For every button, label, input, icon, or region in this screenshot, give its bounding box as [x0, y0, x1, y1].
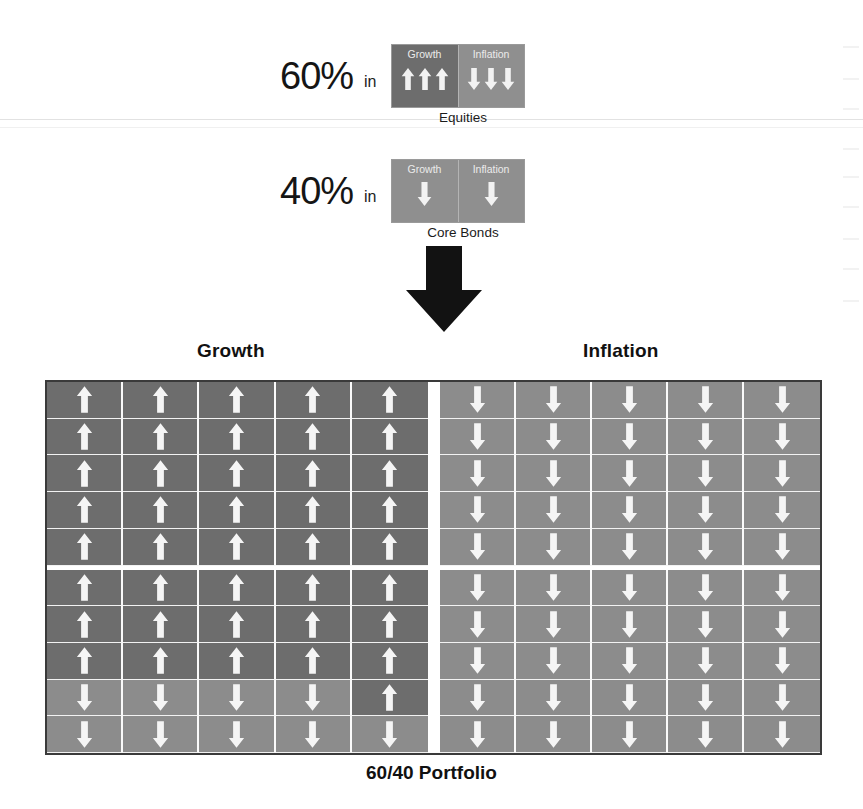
- down-arrow-icon: [696, 532, 715, 561]
- down-arrow-icon: [620, 720, 639, 749]
- down-arrow-icon: [467, 67, 481, 91]
- down-arrow-icon: [544, 720, 563, 749]
- up-arrow-icon: [380, 422, 399, 451]
- allocation-percent: 60%: [280, 57, 353, 95]
- asset-box-core-bonds: Growth Inflation: [391, 159, 525, 223]
- scan-edge-tick: [843, 300, 859, 302]
- heatmap-cell: [440, 606, 516, 643]
- down-arrow-icon: [468, 532, 487, 561]
- heatmap-row: [47, 566, 428, 607]
- heatmap-cell: [352, 570, 428, 607]
- down-arrow-icon: [544, 422, 563, 451]
- asset-half-label-growth: Growth: [408, 164, 442, 175]
- down-arrow-icon: [620, 422, 639, 451]
- scan-edge-tick: [843, 148, 859, 150]
- heatmap-cell: [744, 680, 820, 717]
- down-arrow-icon: [773, 610, 792, 639]
- heatmap-cell: [440, 716, 516, 753]
- heatmap-cell: [123, 570, 199, 607]
- heatmap-cell: [47, 643, 123, 680]
- heatmap-cell: [352, 716, 428, 753]
- up-arrow-icon: [380, 495, 399, 524]
- down-arrow-icon: [468, 646, 487, 675]
- asset-half-label-inflation: Inflation: [473, 164, 510, 175]
- up-arrow-icon: [227, 573, 246, 602]
- up-arrow-icon: [227, 495, 246, 524]
- asset-arrow-strip-growth: [416, 179, 433, 209]
- heatmap-cell: [123, 606, 199, 643]
- down-arrow-icon: [544, 573, 563, 602]
- heatmap-cell: [47, 606, 123, 643]
- up-arrow-icon: [151, 646, 170, 675]
- heatmap-cell: [352, 492, 428, 529]
- heatmap-cell: [47, 716, 123, 753]
- allocation-connector: in: [364, 73, 376, 91]
- down-arrow-icon: [620, 532, 639, 561]
- up-arrow-icon: [380, 646, 399, 675]
- asset-half-inflation: Inflation: [458, 160, 524, 222]
- heatmap-cell: [276, 492, 352, 529]
- heatmap-cell: [744, 382, 820, 419]
- down-arrow-icon: [620, 495, 639, 524]
- down-arrow-icon: [773, 422, 792, 451]
- down-arrow-icon: [620, 385, 639, 414]
- heatmap-cell: [440, 529, 516, 566]
- down-arrow-icon: [468, 385, 487, 414]
- heatmap-cell: [668, 529, 744, 566]
- heatmap-cell: [744, 570, 820, 607]
- up-arrow-icon: [303, 385, 322, 414]
- heatmap-cell: [47, 680, 123, 717]
- up-arrow-icon: [303, 610, 322, 639]
- heatmap-row: [47, 606, 428, 643]
- heatmap-row: [47, 455, 428, 492]
- heatmap-panel-inflation: [440, 382, 820, 753]
- down-arrow-icon: [151, 720, 170, 749]
- asset-arrow-strip-growth: [401, 64, 449, 94]
- up-arrow-icon: [151, 422, 170, 451]
- heatmap-row: [47, 716, 428, 753]
- heatmap-cell: [276, 382, 352, 419]
- heatmap-row: [47, 382, 428, 419]
- heatmap-cell: [352, 606, 428, 643]
- scan-edge-tick: [843, 46, 859, 48]
- down-arrow-icon: [544, 495, 563, 524]
- heatmap-cell: [516, 643, 592, 680]
- heatmap-cell: [516, 680, 592, 717]
- up-arrow-icon: [75, 495, 94, 524]
- heatmap-cell: [592, 455, 668, 492]
- down-arrow-icon: [227, 720, 246, 749]
- heatmap-cell: [199, 570, 275, 607]
- up-arrow-icon: [75, 459, 94, 488]
- up-arrow-icon: [151, 573, 170, 602]
- asset-half-inflation: Inflation: [458, 45, 524, 107]
- heatmap-cell: [123, 382, 199, 419]
- heatmap-cell: [668, 680, 744, 717]
- down-arrow-icon: [468, 720, 487, 749]
- down-arrow-icon: [773, 646, 792, 675]
- heatmap-cell: [744, 716, 820, 753]
- down-arrow-icon: [696, 646, 715, 675]
- heatmap-row: [440, 455, 820, 492]
- down-arrow-icon: [405, 245, 483, 333]
- up-arrow-icon: [380, 683, 399, 712]
- heatmap-row: [440, 419, 820, 456]
- up-arrow-icon: [151, 385, 170, 414]
- down-arrow-icon: [620, 683, 639, 712]
- down-arrow-icon: [544, 683, 563, 712]
- heatmap-cell: [123, 419, 199, 456]
- heatmap-row: [440, 382, 820, 419]
- heatmap-cell: [199, 492, 275, 529]
- up-arrow-icon: [303, 422, 322, 451]
- heatmap-cell: [668, 455, 744, 492]
- down-arrow-icon: [773, 495, 792, 524]
- heatmap-cell: [440, 643, 516, 680]
- heatmap-cell: [276, 455, 352, 492]
- heatmap-cell: [668, 606, 744, 643]
- heatmap-cell: [352, 643, 428, 680]
- heatmap-panel-growth: [47, 382, 428, 753]
- down-arrow-icon: [773, 459, 792, 488]
- up-arrow-icon: [380, 385, 399, 414]
- heatmap-cell: [276, 643, 352, 680]
- heatmap-cell: [516, 455, 592, 492]
- down-arrow-icon: [773, 532, 792, 561]
